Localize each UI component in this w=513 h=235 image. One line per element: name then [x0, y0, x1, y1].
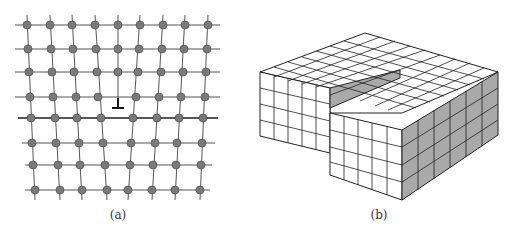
panel-a-edge-dislocation-lattice: (a) — [0, 0, 250, 235]
lattice-diagram — [0, 0, 250, 210]
panel-b-screw-dislocation-block: (b) — [250, 0, 513, 235]
caption-b: (b) — [359, 208, 399, 222]
dislocation-symbol-icon — [112, 98, 124, 108]
caption-a: (a) — [98, 208, 138, 222]
cube-block-diagram — [250, 0, 513, 210]
